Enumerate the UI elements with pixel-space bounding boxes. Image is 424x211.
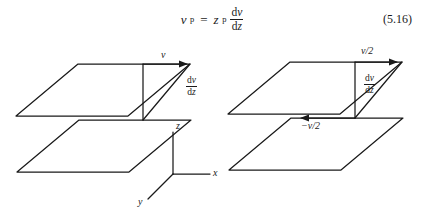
equation-lhs-variable: v (181, 13, 187, 26)
left-gradient-num-var: v (192, 75, 196, 85)
left-upper-plane (16, 64, 190, 116)
left-gradient-numerator: dv (186, 75, 197, 87)
equals-sign: = (200, 13, 207, 26)
diagrams-svg (0, 42, 424, 211)
equation-5-16: vp = zp dv dz (0, 6, 424, 32)
left-velocity-gradient-label: dv dz (186, 75, 197, 98)
right-gradient-denominator: dz (364, 85, 374, 96)
left-velocity-arrow (143, 61, 188, 68)
axis-y (148, 174, 173, 199)
axis-label-x: x (213, 168, 217, 178)
equation-band: vp = zp dv dz (5.16) (0, 0, 424, 42)
left-shear-slope-line (143, 64, 190, 120)
right-bottom-velocity-label: −v/2 (301, 121, 320, 131)
right-shear-slope-line (355, 62, 402, 118)
axis-label-z: z (176, 121, 180, 131)
equation-derivative-fraction: dv dz (230, 6, 243, 32)
left-gradient-den-var: z (192, 87, 196, 97)
equation-fraction-denominator: dz (231, 20, 243, 33)
right-gradient-numerator: dv (364, 73, 375, 85)
numerator-variable: v (237, 6, 242, 18)
equation-number: (5.16) (383, 12, 412, 27)
equation-fraction-numerator: dv (230, 6, 243, 20)
left-coordinate-axes (148, 132, 210, 199)
denominator-variable: z (237, 20, 241, 32)
right-top-velocity-arrow (355, 59, 398, 66)
equation-rhs-variable: z (214, 13, 219, 26)
right-top-velocity-label: v/2 (361, 46, 373, 56)
equation-lhs-subscript: p (190, 15, 194, 24)
right-gradient-num-var: v (370, 73, 374, 83)
diagram-area: v dv dz z x y v/2 −v/2 dv dz (0, 42, 424, 211)
right-velocity-gradient-label: dv dz (364, 73, 375, 96)
left-velocity-label: v (161, 50, 165, 60)
left-gradient-denominator: dz (186, 87, 196, 98)
right-gradient-den-var: z (370, 85, 374, 95)
figure-page: vp = zp dv dz (5.16) (0, 0, 424, 211)
axis-label-y: y (138, 197, 142, 207)
equation-rhs-subscript: p (222, 15, 226, 24)
left-lower-plane (17, 120, 191, 172)
right-upper-plane (228, 62, 402, 114)
